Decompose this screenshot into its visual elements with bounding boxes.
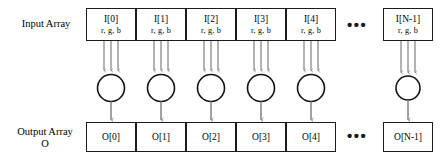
operator-circle[interactable] [148, 75, 175, 102]
operator-circle[interactable] [396, 76, 420, 100]
operator-group-last [396, 41, 420, 120]
operator-group [248, 41, 275, 120]
wiring-overlay [0, 0, 445, 163]
operator-circle[interactable] [198, 75, 225, 102]
operator-circle[interactable] [248, 75, 275, 102]
operator-group [198, 41, 225, 120]
operator-group [98, 41, 125, 120]
diagram-canvas: Input Array Output Array O I[0] r, g, b … [0, 0, 445, 163]
operator-circle[interactable] [98, 75, 125, 102]
operator-group [148, 41, 175, 120]
operator-group [298, 41, 325, 120]
operator-circle[interactable] [298, 75, 325, 102]
